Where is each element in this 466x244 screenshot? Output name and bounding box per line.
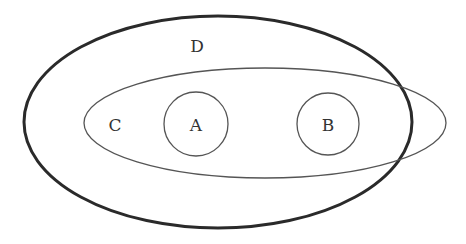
label-a: A [189, 115, 203, 135]
label-d: D [190, 36, 204, 56]
label-c: C [108, 115, 121, 135]
diagram-canvas: D C A B [0, 0, 466, 244]
label-b: B [322, 115, 335, 135]
venn-diagram: D C A B [0, 0, 466, 244]
set-c-ellipse [84, 68, 446, 178]
set-d-ellipse [24, 16, 412, 228]
